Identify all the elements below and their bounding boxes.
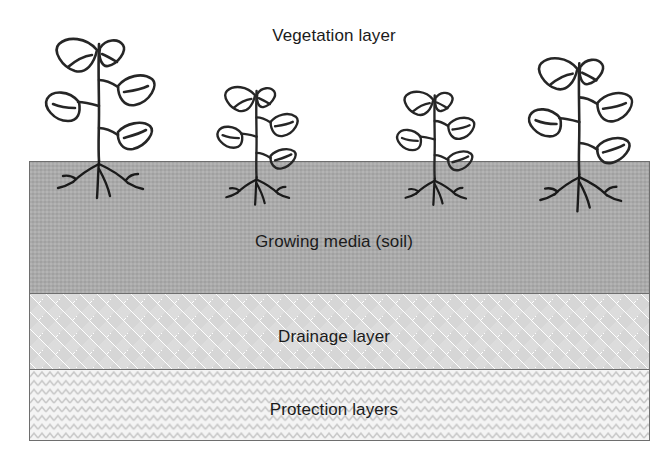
plant-icon [42, 28, 168, 208]
plant-icon [394, 84, 484, 212]
plant-illustration-4 [525, 48, 645, 219]
green-roof-cross-section-diagram: Vegetation layer Growing media (soil) Dr… [0, 0, 668, 458]
plant-illustration-3 [394, 84, 484, 212]
plant-illustration-2 [214, 79, 308, 212]
drainage-layer-label: Drainage layer [0, 327, 668, 347]
plant-icon [525, 48, 645, 219]
protection-layers-label: Protection layers [0, 400, 668, 420]
plant-illustration-1 [42, 28, 168, 208]
plant-icon [214, 79, 308, 212]
growing-media-layer-label: Growing media (soil) [0, 232, 668, 252]
vegetation-layer-label: Vegetation layer [0, 26, 668, 46]
